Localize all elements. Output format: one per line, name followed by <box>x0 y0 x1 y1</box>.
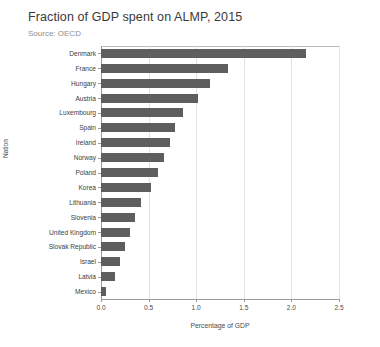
x-axis-title: Percentage of GDP <box>101 322 339 329</box>
bar <box>101 49 306 58</box>
bar <box>101 228 130 237</box>
x-axis-tick-mark <box>339 299 340 302</box>
y-axis-tick-mark <box>98 187 101 188</box>
y-axis-tick-mark <box>98 128 101 129</box>
y-axis-tick-mark <box>98 113 101 114</box>
x-axis-tick-mark <box>149 299 150 302</box>
bar <box>101 257 120 266</box>
y-axis-tick-mark <box>98 53 101 54</box>
y-axis-tick-mark <box>98 83 101 84</box>
y-axis-tick-mark <box>98 173 101 174</box>
y-axis-tick-label: Spain <box>0 123 96 132</box>
bar <box>101 138 170 147</box>
y-axis-tick-mark <box>98 262 101 263</box>
bar <box>101 79 210 88</box>
y-axis-tick-mark <box>98 158 101 159</box>
y-axis-tick-mark <box>98 232 101 233</box>
y-axis-tick-label: Korea <box>0 183 96 192</box>
bar <box>101 198 141 207</box>
y-axis-tick-mark <box>98 247 101 248</box>
x-axis-tick-label: 2.0 <box>276 304 306 311</box>
x-axis-tick-label: 2.5 <box>324 304 354 311</box>
y-axis-tick-mark <box>98 68 101 69</box>
y-axis-tick-mark <box>98 98 101 99</box>
gridline <box>244 46 245 299</box>
gridline <box>291 46 292 299</box>
x-axis-tick-label: 1.0 <box>181 304 211 311</box>
y-axis-tick-label: Poland <box>0 168 96 177</box>
x-axis-tick-mark <box>291 299 292 302</box>
y-axis-tick-label: Mexico <box>0 287 96 296</box>
y-axis-tick-mark <box>98 202 101 203</box>
y-axis-tick-label: Slovak Republic <box>0 242 96 251</box>
x-axis-tick-label: 1.5 <box>229 304 259 311</box>
bar <box>101 183 151 192</box>
x-axis-tick-label: 0.0 <box>86 304 116 311</box>
bar <box>101 213 135 222</box>
y-axis-tick-label: Israel <box>0 257 96 266</box>
y-axis-tick-label: Ireland <box>0 138 96 147</box>
y-axis-tick-label: Lithuania <box>0 198 96 207</box>
bar <box>101 64 228 73</box>
bar <box>101 123 175 132</box>
x-axis-tick-mark <box>196 299 197 302</box>
chart-container: Fraction of GDP spent on ALMP, 2015 Sour… <box>0 0 380 347</box>
y-axis-tick-mark <box>98 143 101 144</box>
bar <box>101 168 158 177</box>
bar <box>101 153 164 162</box>
y-axis-tick-label: Denmark <box>0 49 96 58</box>
bar <box>101 242 125 251</box>
y-axis-tick-label: Norway <box>0 153 96 162</box>
chart-title: Fraction of GDP spent on ALMP, 2015 <box>28 10 242 24</box>
chart-subtitle-source: Source: OECD <box>28 29 81 38</box>
y-axis-tick-label: Slovenia <box>0 213 96 222</box>
x-axis-tick-mark <box>101 299 102 302</box>
y-axis-tick-mark <box>98 217 101 218</box>
y-axis-tick-mark <box>98 277 101 278</box>
bar <box>101 108 183 117</box>
y-axis-tick-label: United Kingdom <box>0 228 96 237</box>
y-axis-tick-label: Hungary <box>0 79 96 88</box>
bar <box>101 94 198 103</box>
y-axis-tick-mark <box>98 292 101 293</box>
y-axis-tick-label: Latvia <box>0 272 96 281</box>
y-axis-tick-label: Austria <box>0 94 96 103</box>
bar <box>101 287 106 296</box>
y-axis-tick-label: France <box>0 64 96 73</box>
x-axis-tick-label: 0.5 <box>134 304 164 311</box>
y-axis-tick-label: Luxembourg <box>0 108 96 117</box>
gridline <box>339 46 340 299</box>
x-axis-tick-mark <box>244 299 245 302</box>
bar <box>101 272 115 281</box>
